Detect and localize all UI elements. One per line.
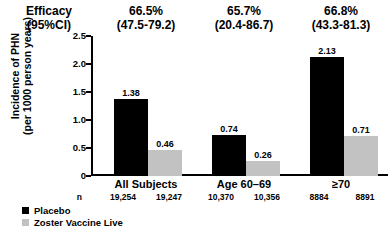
legend-swatch-icon <box>22 207 29 214</box>
legend-swatch-icon <box>22 219 29 226</box>
bar-value-label: 0.74 <box>220 124 238 134</box>
legend-label: Placebo <box>34 206 70 216</box>
bar-value-label: 1.38 <box>122 88 140 98</box>
y-axis-title: Incidence of PHN (per 1000 person years) <box>9 0 33 156</box>
y-tick-mark <box>86 35 91 37</box>
y-tick-mark <box>86 91 91 93</box>
bar-value-label: 0.46 <box>156 139 174 149</box>
y-tick-mark <box>86 119 91 121</box>
n-values-all-subjects: 19,254 19,247 <box>100 192 192 202</box>
y-tick-mark <box>86 147 91 149</box>
phn-incidence-bar-chart: Efficacy (95%CI) 66.5% (47.5-79.2) 65.7%… <box>0 0 390 230</box>
y-tick-label-holder: 2.5 <box>58 31 86 41</box>
bar-group-age-60-69: 0.74 0.26 <box>204 36 288 176</box>
bar-value-label: 0.26 <box>254 150 272 160</box>
y-tick-mark <box>86 175 91 177</box>
bar-value-label: 0.71 <box>352 125 370 135</box>
legend-item-zoster-vaccine-live: Zoster Vaccine Live <box>22 217 123 228</box>
efficacy-percent: 66.8% <box>294 4 388 18</box>
bar-zoster-vaccine-live: 0.71 <box>344 136 378 176</box>
legend: Placebo Zoster Vaccine Live <box>22 205 123 229</box>
y-tick-label: 1.0 <box>62 115 86 125</box>
bar-placebo: 2.13 <box>310 57 344 176</box>
y-tick-label-holder: 1.0 <box>58 115 86 125</box>
efficacy-value-all-subjects: 66.5% (47.5-79.2) <box>98 4 194 32</box>
bar-placebo: 1.38 <box>114 99 148 176</box>
y-tick-label: 2.0 <box>62 59 86 69</box>
n-row-label: n <box>66 192 82 202</box>
n-values-age-70-plus: 8884 8891 <box>296 192 386 202</box>
legend-item-placebo: Placebo <box>22 205 123 216</box>
y-tick-label-holder: 2.0 <box>58 59 86 69</box>
efficacy-percent: 65.7% <box>196 4 292 18</box>
bar-zoster-vaccine-live: 0.46 <box>148 150 182 176</box>
bar-pair: 2.13 0.71 <box>310 36 378 176</box>
n-value-vaccine: 10,356 <box>244 192 290 202</box>
efficacy-ci: (43.3-81.3) <box>294 18 388 32</box>
y-tick-label: 2.5 <box>62 31 86 41</box>
bar-value-label: 2.13 <box>318 46 336 56</box>
n-value-placebo: 19,254 <box>100 192 146 202</box>
bar-zoster-vaccine-live: 0.26 <box>246 161 280 176</box>
efficacy-value-age-70-plus: 66.8% (43.3-81.3) <box>294 4 388 32</box>
y-axis-title-line1: Incidence of PHN <box>9 0 21 156</box>
y-tick-label-holder: 0.5 <box>58 143 86 153</box>
n-value-vaccine: 8891 <box>342 192 388 202</box>
x-axis-label-age-60-69: Age 60–69 <box>196 178 292 191</box>
y-axis-title-line2: (per 1000 person years) <box>21 0 33 156</box>
n-values-age-60-69: 10,370 10,356 <box>198 192 290 202</box>
bar-group-age-70-plus: 2.13 0.71 <box>302 36 386 176</box>
y-tick-label-holder: 1.5 <box>58 87 86 97</box>
bar-placebo: 0.74 <box>212 135 246 176</box>
efficacy-value-age-60-69: 65.7% (20.4-86.7) <box>196 4 292 32</box>
n-value-placebo: 10,370 <box>198 192 244 202</box>
y-tick-label-holder: 0 <box>58 171 86 181</box>
y-tick-mark <box>86 63 91 65</box>
n-value-placebo: 8884 <box>296 192 342 202</box>
legend-label: Zoster Vaccine Live <box>34 218 123 228</box>
x-axis-label-age-70-plus: ≥70 <box>294 178 388 191</box>
bar-group-all-subjects: 1.38 0.46 <box>106 36 190 176</box>
bar-pair: 0.74 0.26 <box>212 36 280 176</box>
y-tick-label: 0 <box>62 171 86 181</box>
bar-pair: 1.38 0.46 <box>114 36 182 176</box>
x-axis-label-all-subjects: All Subjects <box>98 178 194 191</box>
y-tick-label: 1.5 <box>62 87 86 97</box>
efficacy-percent: 66.5% <box>98 4 194 18</box>
plot-area: 1.38 0.46 0.74 0.26 2.13 <box>92 36 388 176</box>
efficacy-ci: (47.5-79.2) <box>98 18 194 32</box>
n-value-vaccine: 19,247 <box>146 192 192 202</box>
y-tick-label: 0.5 <box>62 143 86 153</box>
efficacy-ci: (20.4-86.7) <box>196 18 292 32</box>
